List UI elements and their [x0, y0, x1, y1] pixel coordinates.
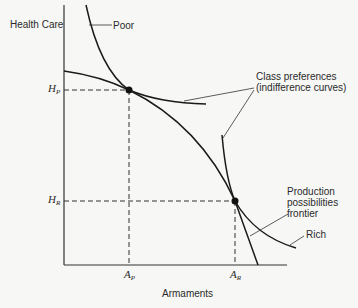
ar-tick-label: AR: [230, 269, 241, 284]
class-pref-line2: (indifference curves): [256, 82, 346, 93]
ppf-line3: frontier: [287, 208, 338, 219]
hp-tick-label: HP: [48, 83, 60, 98]
ppf-line2: possibilities: [287, 197, 338, 208]
ppf-leader: [250, 214, 288, 236]
ap-tick-label: AP: [124, 269, 135, 284]
hr-tick-label: HR: [48, 194, 60, 209]
class-pref-leader-poor: [184, 88, 254, 101]
rich-leader: [290, 236, 304, 245]
poor-indifference-curve: [86, 5, 206, 104]
poor-equilibrium-point: [126, 87, 133, 94]
y-axis-label: Health Care: [10, 19, 63, 30]
rich-equilibrium-point: [232, 198, 239, 205]
ppf-line1: Production: [287, 186, 338, 197]
rich-label: Rich: [306, 229, 326, 240]
class-pref-leader-rich: [223, 90, 254, 138]
class-pref-line1: Class preferences: [256, 71, 346, 82]
ppf-label: Production possibilities frontier: [287, 186, 338, 219]
x-axis-label: Armaments: [162, 288, 213, 299]
diagram-canvas: [0, 0, 358, 308]
poor-label: Poor: [113, 20, 134, 31]
class-preferences-label: Class preferences (indifference curves): [256, 71, 346, 93]
